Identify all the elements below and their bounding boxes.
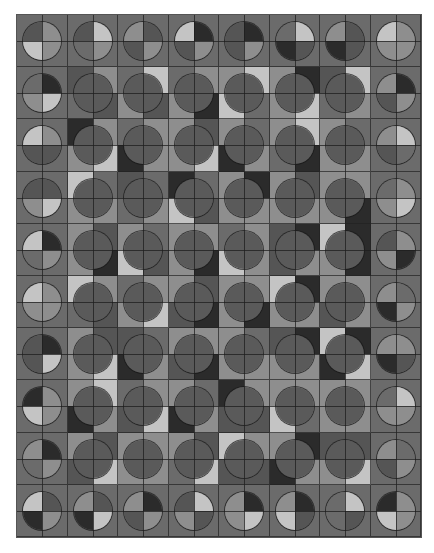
- board-tile[interactable]: [270, 433, 321, 485]
- board-tile[interactable]: [118, 380, 169, 432]
- board-tile[interactable]: [68, 433, 119, 485]
- board-tile[interactable]: [219, 172, 270, 224]
- board-tile[interactable]: [17, 276, 68, 328]
- circle-piece-icon: [276, 22, 314, 60]
- board-tile[interactable]: [219, 276, 270, 328]
- board-tile[interactable]: [320, 119, 371, 171]
- board-tile[interactable]: [219, 380, 270, 432]
- board-tile[interactable]: [118, 119, 169, 171]
- board-tile[interactable]: [320, 15, 371, 67]
- board-tile[interactable]: [371, 380, 422, 432]
- board-tile[interactable]: [320, 276, 371, 328]
- board-tile[interactable]: [169, 328, 220, 380]
- board-tile[interactable]: [270, 15, 321, 67]
- board-tile[interactable]: [118, 224, 169, 276]
- board-tile[interactable]: [118, 276, 169, 328]
- circle-piece-icon: [276, 179, 314, 217]
- circle-piece-icon: [326, 179, 364, 217]
- board-tile[interactable]: [68, 380, 119, 432]
- board-tile[interactable]: [371, 67, 422, 119]
- board-tile[interactable]: [270, 119, 321, 171]
- board-tile[interactable]: [320, 380, 371, 432]
- circle-piece-icon: [225, 335, 263, 373]
- board-tile[interactable]: [169, 276, 220, 328]
- board-tile[interactable]: [371, 15, 422, 67]
- board-tile[interactable]: [320, 172, 371, 224]
- board-tile[interactable]: [17, 328, 68, 380]
- board-tile[interactable]: [219, 328, 270, 380]
- board-tile[interactable]: [219, 224, 270, 276]
- circle-piece-icon: [23, 179, 61, 217]
- board-tile[interactable]: [68, 224, 119, 276]
- board-tile[interactable]: [169, 119, 220, 171]
- board-tile[interactable]: [17, 67, 68, 119]
- circle-piece-icon: [23, 335, 61, 373]
- circle-piece-icon: [74, 440, 112, 478]
- board-tile[interactable]: [169, 380, 220, 432]
- board-tile[interactable]: [371, 433, 422, 485]
- board-tile[interactable]: [68, 119, 119, 171]
- circle-piece-icon: [377, 126, 415, 164]
- board-tile[interactable]: [169, 172, 220, 224]
- board-tile[interactable]: [118, 485, 169, 537]
- board-tile[interactable]: [68, 172, 119, 224]
- board-tile[interactable]: [219, 15, 270, 67]
- board-tile[interactable]: [219, 485, 270, 537]
- board-tile[interactable]: [320, 328, 371, 380]
- board-tile[interactable]: [270, 276, 321, 328]
- circle-piece-icon: [74, 179, 112, 217]
- board-tile[interactable]: [118, 172, 169, 224]
- board-tile[interactable]: [270, 328, 321, 380]
- board-tile[interactable]: [17, 485, 68, 537]
- board-tile[interactable]: [169, 15, 220, 67]
- board-tile[interactable]: [320, 224, 371, 276]
- board-tile[interactable]: [371, 224, 422, 276]
- board-tile[interactable]: [219, 67, 270, 119]
- board-tile[interactable]: [68, 15, 119, 67]
- circle-piece-icon: [23, 126, 61, 164]
- circle-piece-icon: [276, 74, 314, 112]
- board-tile[interactable]: [17, 380, 68, 432]
- board-tile[interactable]: [219, 433, 270, 485]
- board-tile[interactable]: [68, 276, 119, 328]
- board-tile[interactable]: [320, 433, 371, 485]
- circle-piece-icon: [124, 335, 162, 373]
- circle-piece-icon: [175, 335, 213, 373]
- board-tile[interactable]: [371, 276, 422, 328]
- board-tile[interactable]: [68, 485, 119, 537]
- board-tile[interactable]: [371, 328, 422, 380]
- circle-piece-icon: [74, 283, 112, 321]
- circle-piece-icon: [276, 440, 314, 478]
- board-tile[interactable]: [270, 485, 321, 537]
- circle-piece-icon: [175, 283, 213, 321]
- board-tile[interactable]: [68, 328, 119, 380]
- board-tile[interactable]: [270, 224, 321, 276]
- circle-piece-icon: [377, 22, 415, 60]
- board-tile[interactable]: [17, 119, 68, 171]
- circle-piece-icon: [225, 231, 263, 269]
- board-tile[interactable]: [17, 172, 68, 224]
- board-tile[interactable]: [270, 380, 321, 432]
- board-tile[interactable]: [320, 485, 371, 537]
- board-tile[interactable]: [17, 224, 68, 276]
- board-tile[interactable]: [320, 67, 371, 119]
- board-tile[interactable]: [169, 67, 220, 119]
- board-tile[interactable]: [17, 433, 68, 485]
- board-tile[interactable]: [169, 224, 220, 276]
- circle-piece-icon: [326, 22, 364, 60]
- board-tile[interactable]: [118, 15, 169, 67]
- board-tile[interactable]: [169, 433, 220, 485]
- board-tile[interactable]: [219, 119, 270, 171]
- board-tile[interactable]: [118, 328, 169, 380]
- board-tile[interactable]: [118, 433, 169, 485]
- board-tile[interactable]: [169, 485, 220, 537]
- board-tile[interactable]: [371, 172, 422, 224]
- board-tile[interactable]: [270, 172, 321, 224]
- board-tile[interactable]: [371, 119, 422, 171]
- board-tile[interactable]: [68, 67, 119, 119]
- board-tile[interactable]: [270, 67, 321, 119]
- board-tile[interactable]: [118, 67, 169, 119]
- board-tile[interactable]: [17, 15, 68, 67]
- circle-piece-icon: [377, 492, 415, 530]
- board-tile[interactable]: [371, 485, 422, 537]
